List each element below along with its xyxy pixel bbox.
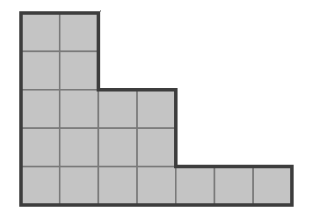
grid-cell bbox=[60, 167, 99, 205]
grid-cell bbox=[98, 90, 137, 128]
grid-cell bbox=[21, 13, 60, 51]
grid-cell bbox=[253, 167, 292, 205]
staircase-grid-figure bbox=[0, 0, 310, 220]
grid-cell bbox=[21, 167, 60, 205]
grid-cell bbox=[21, 51, 60, 89]
grid-cell bbox=[60, 51, 99, 89]
grid-cell bbox=[98, 167, 137, 205]
grid-cell bbox=[137, 90, 176, 128]
grid-cell bbox=[98, 128, 137, 166]
grid-cell bbox=[21, 90, 60, 128]
stray-mark bbox=[100, 10, 101, 12]
grid-cell bbox=[137, 128, 176, 166]
grid-cell bbox=[21, 128, 60, 166]
grid-cell bbox=[60, 90, 99, 128]
grid-cell bbox=[215, 167, 254, 205]
grid-cell bbox=[60, 13, 99, 51]
grid-cell bbox=[176, 167, 215, 205]
grid-cell bbox=[60, 128, 99, 166]
grid-cell bbox=[137, 167, 176, 205]
grid-cells bbox=[21, 13, 292, 205]
